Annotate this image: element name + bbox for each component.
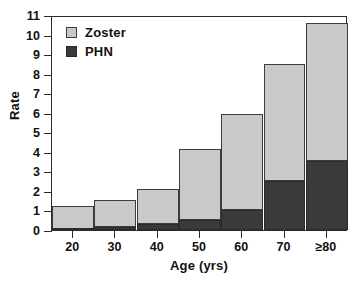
legend-item-phn: PHN <box>66 42 126 61</box>
x-tick <box>284 231 285 238</box>
legend-swatch-phn-icon <box>66 46 77 57</box>
chart-legend: Zoster PHN <box>66 23 126 61</box>
bar-group <box>52 206 94 230</box>
y-tick-label: 2 <box>0 186 40 199</box>
bar-segment-phn <box>306 161 348 230</box>
bar-segment-phn <box>179 220 221 230</box>
bar-segment-phn <box>94 227 136 230</box>
y-tick-label: 4 <box>0 147 40 160</box>
bar-segment-phn <box>221 210 263 230</box>
x-tick <box>114 231 115 238</box>
y-tick-label: 7 <box>0 88 40 101</box>
y-tick-label: 0 <box>0 225 40 238</box>
legend-label-phn: PHN <box>85 44 113 59</box>
legend-item-zoster: Zoster <box>66 23 126 42</box>
x-tick-label: ≥80 <box>296 241 356 254</box>
y-tick <box>44 231 52 232</box>
y-tick-label: 9 <box>0 49 40 62</box>
bar-segment-phn <box>137 224 179 230</box>
y-tick-label: 1 <box>0 205 40 218</box>
x-tick <box>326 231 327 238</box>
y-tick-label: 3 <box>0 166 40 179</box>
y-tick-label: 5 <box>0 127 40 140</box>
x-tick <box>241 231 242 238</box>
y-tick-label: 10 <box>0 30 40 43</box>
x-axis-title: Age (yrs) <box>51 258 347 273</box>
bar-segment-zoster <box>52 206 94 229</box>
x-tick <box>72 231 73 238</box>
bar-group <box>137 189 179 230</box>
bar-group <box>264 64 306 230</box>
bar-segment-zoster <box>221 114 263 211</box>
chart-figure: Rate Age (yrs) 01234567891011 2030405060… <box>0 0 358 283</box>
bar-group <box>306 23 348 230</box>
y-tick-label: 6 <box>0 108 40 121</box>
plot-area: Zoster PHN <box>51 16 347 231</box>
bar-group <box>94 200 136 230</box>
bar-group <box>221 114 263 230</box>
bar-segment-phn <box>52 228 94 230</box>
legend-swatch-zoster-icon <box>66 27 77 38</box>
bar-segment-zoster <box>306 23 348 161</box>
bar-group <box>179 149 221 230</box>
legend-label-zoster: Zoster <box>85 25 126 40</box>
bar-segment-zoster <box>264 64 306 181</box>
bar-segment-zoster <box>137 189 179 224</box>
x-tick <box>157 231 158 238</box>
bar-segment-phn <box>264 181 306 230</box>
x-tick <box>199 231 200 238</box>
bar-segment-zoster <box>179 149 221 220</box>
bar-segment-zoster <box>94 200 136 227</box>
y-tick-label: 8 <box>0 69 40 82</box>
y-tick-label: 11 <box>0 10 40 23</box>
